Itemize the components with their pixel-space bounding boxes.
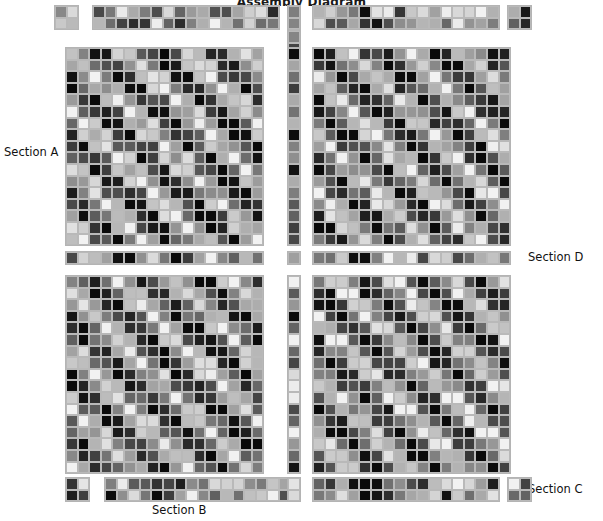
- heatmap-cell: [78, 210, 90, 222]
- heatmap-cell: [136, 152, 148, 164]
- heatmap-cell: [406, 346, 418, 358]
- heatmap-cell: [217, 322, 229, 334]
- heatmap-cell: [101, 392, 113, 404]
- heatmap-cell: [348, 222, 360, 234]
- heatmap-cell: [371, 210, 383, 222]
- heatmap-cell: [313, 48, 325, 60]
- heatmap-cell: [417, 234, 429, 246]
- heatmap-cell: [464, 18, 476, 30]
- heatmap-cell: [244, 490, 256, 502]
- heatmap-cell: [475, 234, 487, 246]
- heatmap-cell: [255, 6, 267, 18]
- heatmap-cell: [394, 415, 406, 427]
- heatmap-cell: [452, 48, 464, 60]
- heatmap-cell: [105, 18, 117, 30]
- heatmap-cell: [336, 234, 348, 246]
- heatmap-cell: [359, 369, 371, 381]
- heatmap-cell: [288, 164, 300, 176]
- heatmap-cell: [112, 415, 124, 427]
- heatmap-cell: [182, 450, 194, 462]
- heatmap-cell: [452, 118, 464, 130]
- heatmap-cell: [441, 187, 453, 199]
- heatmap-cell: [394, 357, 406, 369]
- heatmap-cell: [136, 311, 148, 323]
- heatmap-cell: [336, 187, 348, 199]
- heatmap-cell: [394, 438, 406, 450]
- heatmap-cell: [194, 60, 206, 72]
- heatmap-cell: [417, 6, 429, 18]
- heatmap-cell: [288, 404, 300, 416]
- heatmap-cell: [205, 164, 217, 176]
- heatmap-cell: [499, 222, 511, 234]
- heatmap-cell: [240, 141, 252, 153]
- heatmap-cell: [288, 357, 300, 369]
- heatmap-cell: [205, 299, 217, 311]
- heatmap-cell: [252, 48, 264, 60]
- heatmap-cell: [66, 71, 78, 83]
- heatmap-cell: [487, 322, 499, 334]
- heatmap-cell: [205, 392, 217, 404]
- heatmap-cell: [348, 187, 360, 199]
- heatmap-cell: [429, 450, 441, 462]
- heatmap-cell: [487, 164, 499, 176]
- heatmap-cell: [406, 311, 418, 323]
- heatmap-cell: [499, 152, 511, 164]
- heatmap-cell: [78, 322, 90, 334]
- heatmap-cell: [136, 299, 148, 311]
- heatmap-cell: [124, 60, 136, 72]
- heatmap-cell: [101, 322, 113, 334]
- heatmap-cell: [217, 276, 229, 288]
- heatmap-cell: [112, 380, 124, 392]
- heatmap-cell: [55, 18, 67, 30]
- heatmap-cell: [186, 490, 198, 502]
- heatmap-cell: [406, 252, 418, 264]
- heatmap-cell: [487, 83, 499, 95]
- heatmap-cell: [520, 478, 532, 490]
- heatmap-cell: [348, 60, 360, 72]
- heatmap-cell: [441, 276, 453, 288]
- heatmap-cell: [464, 152, 476, 164]
- heatmap-cell: [429, 427, 441, 439]
- heatmap-cell: [288, 176, 300, 188]
- heatmap-cell: [66, 450, 78, 462]
- heatmap-cell: [147, 462, 159, 474]
- heatmap-cell: [240, 346, 252, 358]
- heatmap-cell: [89, 176, 101, 188]
- heatmap-cell: [359, 334, 371, 346]
- heatmap-cell: [136, 276, 148, 288]
- heatmap-cell: [89, 252, 101, 264]
- heatmap-cell: [186, 18, 198, 30]
- heatmap-cell: [313, 462, 325, 474]
- heatmap-cell: [78, 369, 90, 381]
- heatmap-cell: [288, 276, 300, 288]
- heatmap-cell: [313, 252, 325, 264]
- heatmap-cell: [194, 187, 206, 199]
- heatmap-cell: [475, 369, 487, 381]
- heatmap-cell: [475, 288, 487, 300]
- heatmap-cell: [182, 164, 194, 176]
- heatmap-cell: [136, 392, 148, 404]
- heatmap-cell: [66, 141, 78, 153]
- heatmap-cell: [112, 164, 124, 176]
- heatmap-cell: [475, 187, 487, 199]
- heatmap-cell: [159, 252, 171, 264]
- heatmap-cell: [159, 234, 171, 246]
- heatmap-cell: [313, 392, 325, 404]
- heatmap-cell: [313, 187, 325, 199]
- heatmap-cell: [228, 48, 240, 60]
- heatmap-cell: [313, 427, 325, 439]
- heatmap-cell: [359, 490, 371, 502]
- heatmap-cell: [89, 141, 101, 153]
- heatmap-cell: [441, 288, 453, 300]
- heatmap-cell: [240, 210, 252, 222]
- heatmap-cell: [136, 176, 148, 188]
- heatmap-cell: [441, 478, 453, 490]
- heatmap-cell: [217, 118, 229, 130]
- heatmap-cell: [252, 187, 264, 199]
- heatmap-cell: [66, 152, 78, 164]
- heatmap-cell: [198, 478, 210, 490]
- heatmap-cell: [348, 478, 360, 490]
- heatmap-cell: [89, 322, 101, 334]
- heatmap-cell: [359, 152, 371, 164]
- heatmap-cell: [288, 94, 300, 106]
